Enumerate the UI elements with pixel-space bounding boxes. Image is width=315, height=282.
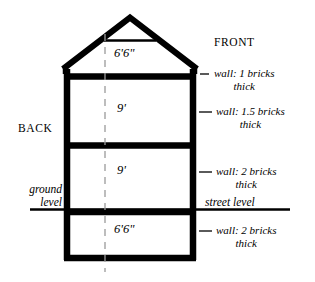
back-label: BACK [18,122,52,136]
wall-note-upper-floor-line1: wall: 1.5 bricks [216,105,285,118]
ground-level-label-line2: level [4,196,62,209]
wall-note-ground-floor-line2: thick [216,178,277,191]
ground-level-label: ground level [4,183,62,209]
roof-gable [63,18,197,70]
dimension-basement: 6'6" [114,222,134,237]
wall-note-upper-floor: wall: 1.5 bricks thick [216,105,285,131]
wall-note-basement-line2: thick [216,237,277,250]
dimension-ground-floor: 9' [117,163,126,178]
wall-note-attic-line2: thick [214,80,275,93]
wall-note-ground-floor: wall: 2 bricks thick [216,165,277,191]
dimension-upper-floor: 9' [117,101,126,116]
dimension-attic: 6'6" [114,46,134,61]
ground-level-label-line1: ground [4,183,62,196]
front-label: FRONT [214,36,255,50]
wall-note-basement-line1: wall: 2 bricks [216,224,277,237]
house-cross-section-diagram: FRONT BACK 6'6" 9' 9' 6'6" wall: 1 brick… [0,0,315,282]
wall-note-upper-floor-line2: thick [216,118,285,131]
wall-note-ground-floor-line1: wall: 2 bricks [216,165,277,178]
wall-note-basement: wall: 2 bricks thick [216,224,277,250]
street-level-label: street level [205,196,255,210]
wall-note-attic-line1: wall: 1 bricks [214,67,275,80]
wall-note-attic: wall: 1 bricks thick [214,67,275,93]
